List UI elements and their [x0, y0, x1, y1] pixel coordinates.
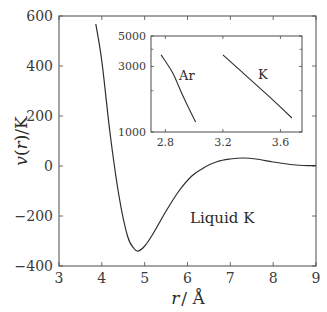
x-tick-label: 8	[269, 270, 278, 286]
x-tick-label: 9	[312, 270, 321, 286]
inset-frame	[151, 36, 302, 132]
x-tick-label: 6	[183, 270, 192, 286]
inset-y-tick-label: 1000	[118, 126, 146, 139]
svg-text:v(r)/K: v(r)/K	[11, 116, 31, 166]
annotation-k: K	[258, 67, 268, 82]
inset-axes	[151, 36, 302, 132]
x-tick-label: 4	[97, 270, 106, 286]
y-tick-label: 600	[26, 8, 53, 24]
y-tick-label: 400	[26, 58, 53, 74]
y-tick-label: 0	[44, 158, 53, 174]
x-tick-label: 7	[226, 270, 235, 286]
y-tick-label: −200	[15, 208, 53, 224]
x-axis-label: r/ Å	[171, 288, 205, 308]
annotation-ar: Ar	[178, 68, 195, 83]
x-tick-label: 5	[140, 270, 149, 286]
inset-x-tick-label: 2.8	[157, 136, 175, 149]
inset-x-tick-label: 3.6	[272, 136, 290, 149]
inset-y-tick-label: 3000	[118, 60, 146, 73]
y-axis-label: v(r)/K	[11, 116, 31, 166]
y-tick-label: −400	[15, 258, 53, 274]
inset-y-tick-label: 5000	[118, 30, 146, 43]
inset-x-tick-label: 3.2	[214, 136, 232, 149]
x-tick-label: 3	[55, 270, 64, 286]
annotation-liquid-k: Liquid K	[190, 209, 255, 227]
potential-chart: 3456789−400−2000200400600 Liquid K 2.83.…	[0, 0, 327, 312]
